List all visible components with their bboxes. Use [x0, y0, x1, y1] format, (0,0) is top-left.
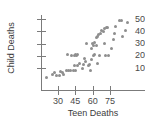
x-tick-mark: [93, 86, 94, 95]
data-point: [84, 60, 87, 63]
x-tick-label: 60: [84, 97, 102, 106]
x-tick-mark: [110, 86, 111, 95]
data-point: [88, 63, 91, 66]
data-point: [126, 21, 129, 24]
data-point: [110, 47, 113, 50]
data-point: [96, 62, 99, 65]
data-point: [74, 69, 77, 72]
data-point: [66, 53, 69, 56]
y-tick-label: 10: [131, 64, 145, 73]
data-point: [103, 42, 106, 45]
data-point: [113, 32, 116, 35]
data-point: [107, 54, 110, 57]
x-axis-title: Teen Deaths: [41, 108, 145, 118]
x-tick-mark: [75, 86, 76, 95]
y-tick-label: 20: [131, 51, 145, 60]
data-point: [62, 73, 65, 76]
data-point: [93, 53, 96, 56]
data-point: [45, 76, 48, 79]
y-tick-mark: [37, 56, 46, 57]
data-point: [89, 69, 92, 72]
data-point: [83, 57, 86, 60]
data-point: [120, 19, 123, 22]
y-tick-mark: [37, 68, 46, 69]
plot-area: 5040302010 30456075 Child Deaths Teen De…: [0, 0, 145, 123]
y-axis-line: [41, 15, 42, 90]
data-point: [106, 26, 109, 29]
x-tick-label: 45: [66, 97, 84, 106]
x-tick-mark: [58, 86, 59, 95]
data-point: [121, 35, 124, 38]
data-point: [90, 58, 93, 61]
data-point: [93, 41, 96, 44]
x-tick-label: 75: [101, 97, 119, 106]
data-point: [90, 47, 93, 50]
y-tick-label: 50: [131, 15, 145, 24]
data-point: [85, 42, 88, 45]
x-tick-label: 30: [49, 97, 67, 106]
y-tick-label: 40: [131, 27, 145, 36]
y-tick-mark: [37, 19, 46, 20]
data-point: [81, 67, 84, 70]
data-point: [58, 74, 61, 77]
data-point: [98, 54, 101, 57]
data-point: [76, 53, 79, 56]
data-point: [112, 38, 115, 41]
data-point: [114, 25, 117, 28]
y-tick-label: 30: [131, 39, 145, 48]
y-tick-mark: [37, 44, 46, 45]
data-point: [82, 63, 85, 66]
data-point: [124, 29, 127, 32]
data-point: [95, 44, 98, 47]
scatter-plot-figure: 5040302010 30456075 Child Deaths Teen De…: [0, 0, 145, 123]
y-axis-title: Child Deaths: [6, 15, 16, 81]
data-point: [102, 30, 105, 33]
y-tick-mark: [37, 31, 46, 32]
